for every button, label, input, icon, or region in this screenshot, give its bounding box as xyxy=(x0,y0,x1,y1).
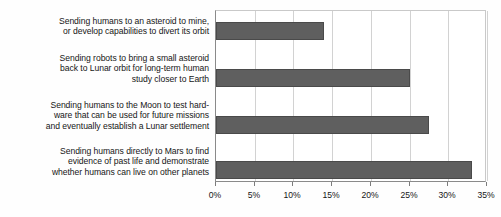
x-tick-label-5%: 5% xyxy=(234,190,274,200)
category-label-0: Sending humans to an asteroid to mine, o… xyxy=(0,16,209,37)
category-label-1-line-2: study closer to Earth xyxy=(0,74,209,84)
category-label-3: Sending humans directly to Mars to find … xyxy=(0,146,209,177)
category-label-1: Sending robots to bring a small asteroid… xyxy=(0,53,209,84)
category-label-2-line-0: Sending humans to the Moon to test hard- xyxy=(0,100,209,110)
x-tick-label-30%: 30% xyxy=(427,190,467,200)
gridline-30% xyxy=(448,11,449,181)
x-tick-label-35%: 35% xyxy=(466,190,501,200)
bar-3 xyxy=(216,161,472,179)
x-tick-label-10%: 10% xyxy=(272,190,312,200)
x-tick-0% xyxy=(215,182,216,186)
category-label-2: Sending humans to the Moon to test hard-… xyxy=(0,100,209,131)
category-label-1-line-1: back to Lunar orbit for long-term human xyxy=(0,63,209,73)
horizontal-bar-chart: Sending humans to an asteroid to mine, o… xyxy=(0,0,501,217)
x-tick-30% xyxy=(447,182,448,186)
gridline-15% xyxy=(332,11,333,181)
category-label-3-line-1: evidence of past life and demonstrate xyxy=(0,156,209,166)
x-tick-5% xyxy=(254,182,255,186)
gridline-35% xyxy=(487,11,488,181)
x-tick-label-20%: 20% xyxy=(350,190,390,200)
category-label-0-line-0: Sending humans to an asteroid to mine, xyxy=(0,16,209,26)
bar-0 xyxy=(216,22,324,40)
x-tick-15% xyxy=(331,182,332,186)
category-label-2-line-2: and eventually establish a Lunar settlem… xyxy=(0,121,209,131)
category-label-column: Sending humans to an asteroid to mine, o… xyxy=(0,0,213,182)
category-label-3-line-0: Sending humans directly to Mars to find xyxy=(0,146,209,156)
gridline-25% xyxy=(410,11,411,181)
x-tick-label-25%: 25% xyxy=(389,190,429,200)
bar-2 xyxy=(216,116,429,134)
x-tick-label-15%: 15% xyxy=(311,190,351,200)
x-tick-35% xyxy=(486,182,487,186)
category-label-2-line-1: ware that can be used for future mission… xyxy=(0,110,209,120)
x-tick-10% xyxy=(292,182,293,186)
category-label-3-line-2: whether humans can live on other planets xyxy=(0,167,209,177)
category-label-1-line-0: Sending robots to bring a small asteroid xyxy=(0,53,209,63)
x-tick-label-0%: 0% xyxy=(195,190,235,200)
plot-area xyxy=(215,10,486,182)
category-label-0-line-1: or develop capabilities to divert its or… xyxy=(0,26,209,36)
gridline-20% xyxy=(371,11,372,181)
x-tick-20% xyxy=(370,182,371,186)
x-tick-25% xyxy=(409,182,410,186)
bar-1 xyxy=(216,69,410,87)
